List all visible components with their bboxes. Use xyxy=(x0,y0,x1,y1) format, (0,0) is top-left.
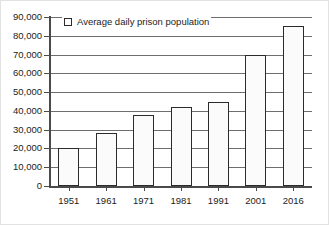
x-axis-tick xyxy=(181,186,182,191)
chart-legend: Average daily prison population xyxy=(62,16,211,28)
bar xyxy=(96,133,117,186)
x-axis-tick-label: 1951 xyxy=(49,196,89,206)
bar xyxy=(245,55,266,186)
y-axis-tick-label: 50,000 xyxy=(0,87,42,97)
x-axis-tick-label: 1961 xyxy=(86,196,126,206)
y-axis-tick-label: 40,000 xyxy=(0,106,42,116)
bar xyxy=(283,26,304,186)
gridline xyxy=(50,92,312,93)
legend-swatch-icon xyxy=(64,18,72,26)
x-axis-tick xyxy=(256,186,257,191)
bar xyxy=(58,148,79,186)
y-axis-tick-label: 10,000 xyxy=(0,162,42,172)
y-axis-tick-label: 60,000 xyxy=(0,68,42,78)
x-axis-tick-label: 2016 xyxy=(273,196,313,206)
x-axis-tick xyxy=(293,186,294,191)
x-axis-tick-label: 1981 xyxy=(161,196,201,206)
plot-area xyxy=(50,17,312,186)
y-axis-tick-label: 30,000 xyxy=(0,125,42,135)
y-axis-tick-label: 20,000 xyxy=(0,143,42,153)
y-axis-tick-label: 80,000 xyxy=(0,31,42,41)
x-axis-tick-label: 2001 xyxy=(236,196,276,206)
gridline xyxy=(50,73,312,74)
bar xyxy=(133,115,154,186)
x-axis-tick xyxy=(218,186,219,191)
x-axis-tick xyxy=(106,186,107,191)
bar xyxy=(171,107,192,186)
y-axis-tick-label: 0 xyxy=(0,181,42,191)
legend-label: Average daily prison population xyxy=(77,17,209,27)
gridline xyxy=(50,55,312,56)
gridline xyxy=(50,36,312,37)
x-axis-tick-label: 1971 xyxy=(124,196,164,206)
x-axis-tick xyxy=(144,186,145,191)
y-axis-tick-label: 90,000 xyxy=(0,12,42,22)
bar xyxy=(208,102,229,187)
y-axis-tick-label: 70,000 xyxy=(0,50,42,60)
bar-chart-figure: 010,00020,00030,00040,00050,00060,00070,… xyxy=(0,0,329,225)
y-axis-spine xyxy=(49,16,51,187)
x-axis-tick-label: 1991 xyxy=(198,196,238,206)
x-axis-tick xyxy=(69,186,70,191)
